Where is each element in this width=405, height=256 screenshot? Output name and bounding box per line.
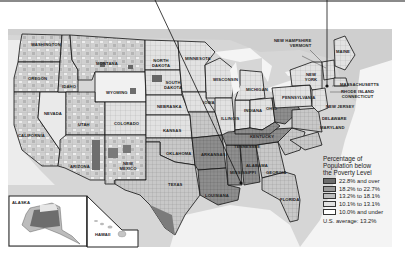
pointer-lines [0, 0, 405, 256]
